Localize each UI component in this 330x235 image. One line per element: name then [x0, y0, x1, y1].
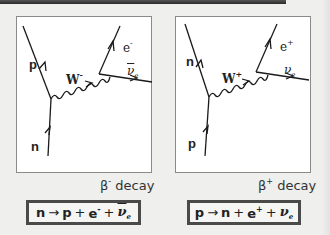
label-neutron: n — [31, 140, 39, 153]
label-proton: p — [188, 137, 196, 150]
beta-minus-equation: n → p + e- + νe — [26, 200, 141, 225]
top-bar — [0, 0, 286, 4]
label-w-boson: W- — [66, 71, 83, 86]
label-electron: e- — [123, 40, 133, 54]
beta-minus-feynman-diagram: p n W- e- νe — [16, 16, 152, 173]
label-neutrino: νe — [284, 64, 295, 79]
beta-plus-caption: β+ decay — [258, 177, 316, 193]
beta-plus-feynman-diagram: n p W+ e+ νe — [175, 16, 311, 173]
label-neutron: n — [186, 55, 194, 68]
label-positron: e+ — [280, 39, 294, 53]
label-proton: p — [29, 58, 37, 71]
label-w-boson: W+ — [222, 70, 242, 85]
right-edge-shadow — [322, 0, 330, 235]
beta-plus-equation: p → n + e+ + νe — [187, 200, 301, 225]
label-antineutrino: νe — [127, 65, 138, 80]
beta-minus-caption: β- decay — [100, 177, 154, 193]
